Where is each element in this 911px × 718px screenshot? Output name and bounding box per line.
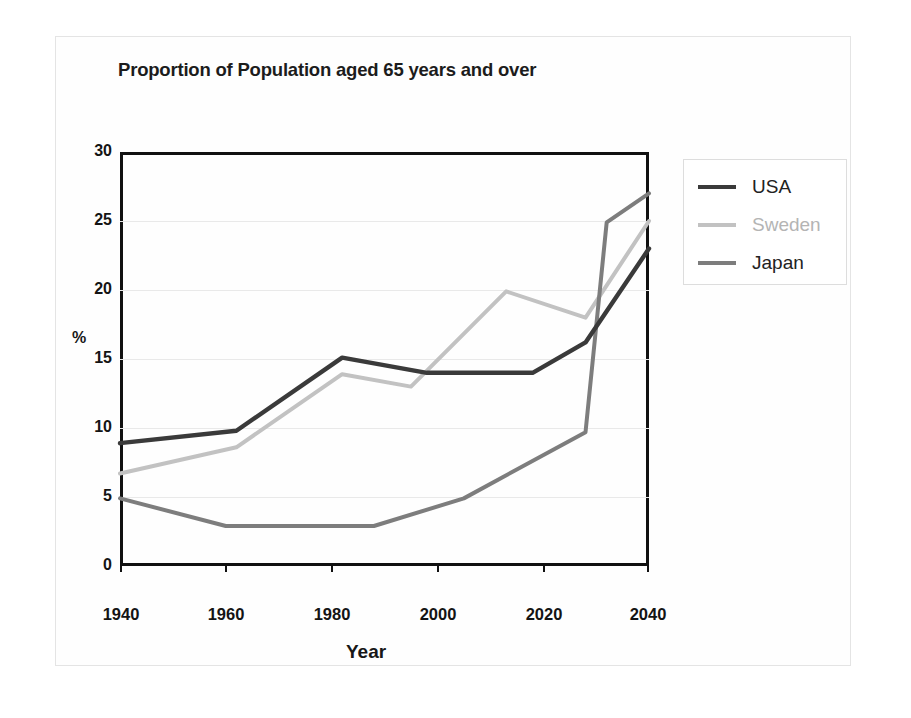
chart-title: Proportion of Population aged 65 years a…	[118, 59, 718, 81]
x-tick-2040: 2040	[613, 605, 683, 624]
legend-item-usa[interactable]: USA	[684, 166, 846, 208]
chart-card: Proportion of Population aged 65 years a…	[55, 36, 851, 666]
y-tick-25: 25	[78, 211, 112, 229]
legend-swatch-sweden	[698, 223, 736, 227]
legend-label-usa: USA	[752, 176, 791, 198]
series-line-usa	[120, 249, 649, 444]
x-tick-2020: 2020	[509, 605, 579, 624]
x-axis-label: Year	[346, 641, 386, 663]
y-tick-15: 15	[78, 349, 112, 367]
y-tick-5: 5	[78, 487, 112, 505]
legend-label-sweden: Sweden	[752, 214, 821, 236]
y-axis-label: %	[72, 329, 86, 347]
y-tick-20: 20	[78, 280, 112, 298]
y-tick-10: 10	[78, 418, 112, 436]
x-tick-1960: 1960	[191, 605, 261, 624]
legend-label-japan: Japan	[752, 252, 804, 274]
y-tick-30: 30	[78, 142, 112, 160]
chart-lines	[120, 152, 649, 566]
legend-item-japan[interactable]: Japan	[684, 242, 846, 284]
x-tick-2000: 2000	[403, 605, 473, 624]
x-tick-1980: 1980	[297, 605, 367, 624]
y-tick-0: 0	[78, 556, 112, 574]
legend-item-sweden[interactable]: Sweden	[684, 204, 846, 246]
legend-swatch-usa	[698, 185, 736, 189]
legend: USA Sweden Japan	[683, 159, 847, 285]
series-line-japan	[120, 193, 649, 526]
x-tick-1940: 1940	[86, 605, 156, 624]
legend-swatch-japan	[698, 261, 736, 265]
plot-area	[120, 152, 649, 566]
